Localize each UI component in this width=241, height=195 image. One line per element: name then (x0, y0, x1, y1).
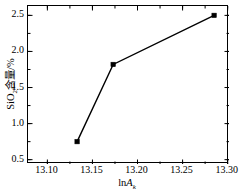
plot-area (27, 5, 228, 163)
y-tick-label: 1.0 (12, 117, 25, 129)
data-point-marker (111, 62, 116, 67)
chart-figure: 13.1013.1513.2013.2513.30 0.51.01.52.02.… (0, 0, 241, 195)
x-tick-label: 13.15 (80, 164, 103, 176)
x-tick-label: 13.10 (35, 164, 58, 176)
y-tick-label: 2.0 (12, 44, 25, 56)
series-canvas (28, 6, 229, 164)
x-tick-label: 13.25 (170, 164, 193, 176)
y-tick-label: 0.5 (12, 153, 25, 165)
x-axis-title: lnAk (118, 177, 136, 191)
y-axis-title: SiO2含量/% (2, 58, 19, 110)
data-point-marker (75, 139, 80, 144)
x-tick-label: 13.30 (215, 164, 238, 176)
x-tick-label: 13.20 (125, 164, 148, 176)
data-line (77, 15, 214, 141)
y-tick-label: 2.5 (12, 8, 25, 20)
data-point-marker (212, 13, 217, 18)
